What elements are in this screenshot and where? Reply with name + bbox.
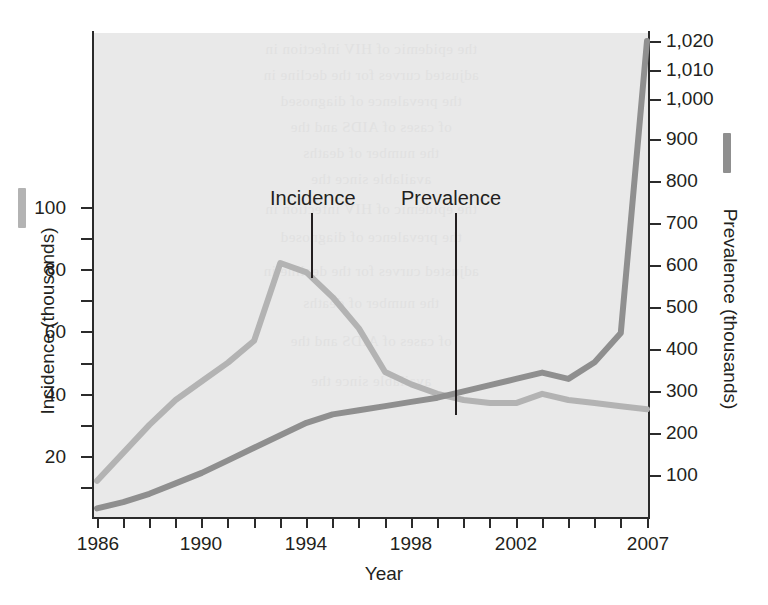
y-axis-right-label: 100: [666, 465, 698, 484]
y-axis-right-tick: [650, 349, 661, 351]
y-axis-right-label: 200: [666, 423, 698, 442]
prevalence-annotation-label: Prevalence: [401, 187, 501, 210]
x-axis-label: 1990: [156, 534, 246, 553]
y-axis-left-tick: [81, 456, 92, 458]
x-axis-label: 1986: [53, 534, 143, 553]
incidence-legend-swatch: [18, 188, 26, 228]
y-axis-right-label: 800: [666, 171, 698, 190]
x-axis-tick: [254, 519, 256, 528]
y-axis-right-label: 1,000: [666, 89, 714, 108]
x-axis-tick: [437, 519, 439, 528]
y-axis-left-tick: [81, 363, 92, 365]
y-axis-right-tick: [650, 99, 661, 101]
x-axis-label: 1998: [366, 534, 456, 553]
x-axis-title: Year: [0, 563, 768, 585]
y-axis-right-title: Prevalence (thousands): [719, 159, 741, 459]
y-axis-right-tick: [650, 139, 661, 141]
y-axis-left-tick: [81, 238, 92, 240]
x-axis-tick: [411, 519, 413, 528]
y-axis-right-tick: [650, 223, 661, 225]
y-axis-left-tick: [81, 487, 92, 489]
y-axis-right-tick: [650, 181, 661, 183]
y-axis-left-tick: [81, 300, 92, 302]
x-axis-tick: [123, 519, 125, 528]
x-axis-label: 2002: [471, 534, 561, 553]
incidence-annotation-label: Incidence: [270, 187, 356, 210]
y-axis-right-tick: [650, 391, 661, 393]
y-axis-left-title: Incidence (thousands): [37, 171, 59, 471]
y-axis-right-label: 300: [666, 381, 698, 400]
x-axis-tick: [594, 519, 596, 528]
x-axis-tick: [463, 519, 465, 528]
y-axis-right-tick: [650, 433, 661, 435]
x-axis-tick: [227, 519, 229, 528]
x-axis-tick: [332, 519, 334, 528]
y-axis-right-tick: [650, 307, 661, 309]
prevalence-leader-line: [455, 213, 457, 415]
x-axis-tick: [516, 519, 518, 528]
y-axis-right-label: 500: [666, 297, 698, 316]
y-axis-right-label: 600: [666, 255, 698, 274]
x-axis-tick: [620, 519, 622, 528]
x-axis-tick: [149, 519, 151, 528]
y-axis-left-tick: [81, 394, 92, 396]
figure-container: the epidemic of HIV infection in adjuste…: [0, 0, 768, 605]
y-axis-right-tick: [650, 265, 661, 267]
x-axis-label: 2007: [603, 534, 693, 553]
y-axis-right-label: 900: [666, 129, 698, 148]
y-axis-right-tick: [650, 70, 661, 72]
x-axis-tick: [542, 519, 544, 528]
x-axis-tick: [306, 519, 308, 528]
prevalence-series-line: [97, 41, 647, 508]
incidence-leader-line: [311, 213, 313, 278]
x-axis-label: 1994: [261, 534, 351, 553]
x-axis-tick: [358, 519, 360, 528]
x-axis-tick: [568, 519, 570, 528]
y-axis-right-label: 700: [666, 213, 698, 232]
y-axis-left-tick: [81, 207, 92, 209]
x-axis-tick: [175, 519, 177, 528]
y-axis-left-tick: [81, 425, 92, 427]
series-canvas: [0, 0, 768, 605]
x-axis-tick: [280, 519, 282, 528]
y-axis-right-label: 400: [666, 339, 698, 358]
y-axis-right-label: 1,010: [666, 60, 714, 79]
x-axis-tick: [647, 519, 649, 528]
y-axis-left-tick: [81, 331, 92, 333]
x-axis-tick: [201, 519, 203, 528]
y-axis-left-tick: [81, 269, 92, 271]
x-axis-tick: [489, 519, 491, 528]
incidence-series-line: [97, 263, 647, 481]
x-axis-tick: [385, 519, 387, 528]
y-axis-right-tick: [650, 475, 661, 477]
y-axis-right-label: 1,020: [666, 31, 714, 50]
y-axis-right-tick: [650, 41, 661, 43]
x-axis-tick: [97, 519, 99, 528]
